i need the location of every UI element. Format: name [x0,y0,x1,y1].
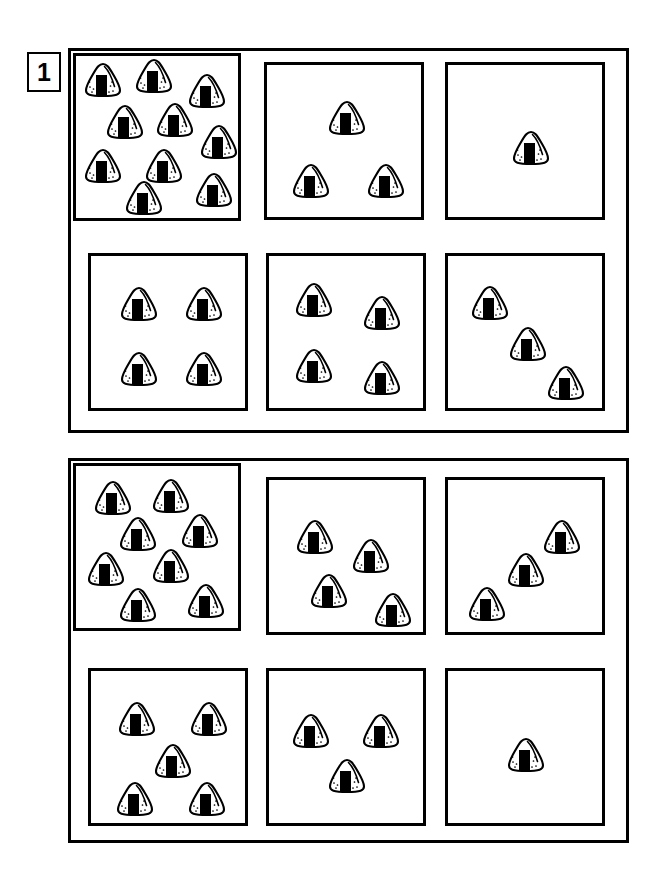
onigiri-icon [199,124,239,160]
onigiri-icon [511,130,551,166]
onigiri-icon [506,552,546,588]
onigiri-icon [118,516,158,552]
onigiri-icon [351,538,391,574]
onigiri-icon [361,713,401,749]
onigiri-icon [151,548,191,584]
onigiri-icon [362,360,402,396]
answer-cell-8-items[interactable] [73,463,241,631]
onigiri-icon [294,348,334,384]
onigiri-icon [187,781,227,817]
onigiri-icon [194,172,234,208]
answer-cell-3-items[interactable] [445,253,605,411]
onigiri-icon [362,295,402,331]
onigiri-icon [115,781,155,817]
answer-cell-10-items[interactable] [73,53,241,221]
onigiri-icon [151,478,191,514]
onigiri-icon [180,513,220,549]
exercise-number-badge: 1 [27,52,61,92]
answer-cell-5-items[interactable] [88,668,248,826]
onigiri-icon [327,758,367,794]
onigiri-icon [184,351,224,387]
onigiri-icon [542,519,582,555]
onigiri-icon [327,100,367,136]
onigiri-icon [184,286,224,322]
worksheet-page: 1 [0,0,652,882]
onigiri-icon [546,365,586,401]
answer-cell-4-items[interactable] [266,253,426,411]
answer-cell-1-items[interactable] [445,62,605,220]
onigiri-icon [291,713,331,749]
onigiri-icon [373,592,413,628]
onigiri-icon [144,148,184,184]
onigiri-icon [189,701,229,737]
answer-cell-3-items[interactable] [266,668,426,826]
onigiri-icon [309,573,349,609]
onigiri-icon [134,58,174,94]
onigiri-icon [155,102,195,138]
onigiri-icon [366,163,406,199]
onigiri-icon [119,351,159,387]
onigiri-icon [470,285,510,321]
onigiri-icon [93,480,133,516]
onigiri-icon [124,180,164,216]
answer-cell-1-items[interactable] [445,668,605,826]
onigiri-icon [295,519,335,555]
onigiri-icon [186,583,226,619]
onigiri-icon [117,701,157,737]
answer-cell-3-items[interactable] [445,477,605,635]
onigiri-icon [153,743,193,779]
onigiri-icon [118,587,158,623]
onigiri-icon [291,163,331,199]
onigiri-icon [119,286,159,322]
onigiri-icon [83,148,123,184]
onigiri-icon [294,282,334,318]
onigiri-icon [86,551,126,587]
onigiri-icon [506,737,546,773]
answer-cell-4-items[interactable] [266,477,426,635]
onigiri-icon [83,62,123,98]
onigiri-icon [508,326,548,362]
onigiri-icon [467,586,507,622]
answer-cell-4-items[interactable] [88,253,248,411]
answer-cell-3-items[interactable] [264,62,424,220]
onigiri-icon [105,104,145,140]
